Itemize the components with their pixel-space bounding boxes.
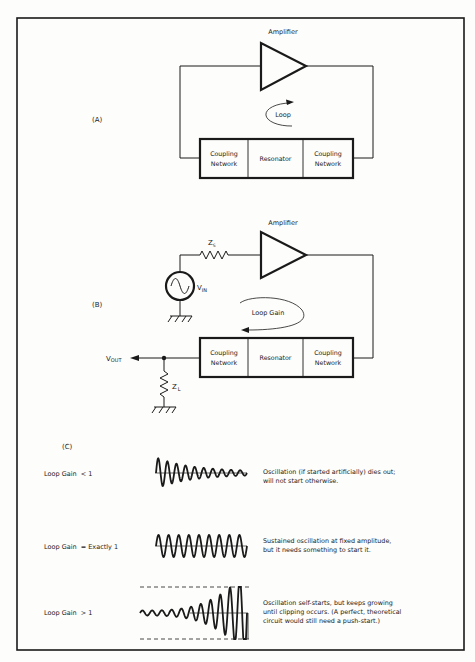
part-b-label: (B): [92, 301, 103, 309]
condition-label: Loop Gain = Exactly 1: [44, 543, 118, 551]
part-a-label: (A): [92, 116, 103, 124]
description-line1: Oscillation (if started artificially) di…: [263, 468, 396, 476]
zl-resistor-icon: [160, 371, 168, 397]
coupling-network-left-line2: Network: [211, 359, 238, 366]
feedback-wire-right: [306, 255, 373, 358]
loop-gain-label: Loop Gain: [252, 309, 285, 317]
figure-frame: [17, 18, 464, 650]
loop-gain-arrowhead-icon: [241, 327, 249, 333]
part-c-loop-gain-comparison: (C) Loop Gain < 1 Oscillation (if starte…: [44, 443, 402, 639]
description-line1: Oscillation self-starts, but keeps growi…: [263, 599, 393, 607]
loop-arrowhead-icon: [286, 100, 294, 106]
coupling-network-right-line2: Network: [315, 359, 342, 366]
vout-label: VOUT: [106, 355, 122, 363]
zl-label: ZL: [172, 383, 181, 392]
coupling-network-left-line1: Coupling: [210, 150, 238, 158]
source-wire: [180, 255, 200, 272]
output-arrowhead-icon: [130, 355, 139, 361]
resonator-label: Resonator: [260, 354, 292, 361]
vin-label: VIN: [197, 284, 207, 293]
description-line2: until clipping occurs. (A perfect, theor…: [263, 608, 402, 616]
part-b-loop-gain-diagram: (B) Amplifier ZS VIN Loop Gain Coupling: [92, 219, 373, 413]
coupling-network-right-line2: Network: [315, 160, 342, 167]
amplifier-triangle-icon: [261, 232, 306, 278]
ground-icon: [168, 316, 192, 322]
condition-label: Loop Gain > 1: [44, 609, 92, 617]
coupling-network-right-line1: Coupling: [314, 349, 342, 357]
ground-icon: [152, 407, 176, 413]
oscillator-loop-gain-diagram: (A) Amplifier Loop Coupling Network Reso…: [0, 0, 475, 662]
amplifier-label: Amplifier: [268, 219, 298, 227]
coupling-network-right-line1: Coupling: [314, 150, 342, 158]
condition-label: Loop Gain < 1: [44, 470, 92, 478]
amplifier-triangle-icon: [261, 43, 306, 90]
description-line2: will not start otherwise.: [263, 477, 338, 485]
coupling-network-left-line1: Coupling: [210, 349, 238, 357]
coupling-network-left-line2: Network: [211, 160, 238, 167]
feedback-wire-right: [306, 66, 373, 158]
sine-wave-icon: [171, 279, 189, 294]
description-line1: Sustained oscillation at fixed amplitude…: [263, 537, 391, 545]
amplifier-label: Amplifier: [268, 28, 298, 36]
decaying-waveform-icon: [156, 458, 247, 486]
part-c-label: (C): [62, 443, 73, 451]
part-a-loop-diagram: (A) Amplifier Loop Coupling Network Reso…: [92, 28, 373, 178]
description-line2: but it needs something to start it.: [263, 546, 371, 554]
zs-resistor-icon: [200, 251, 228, 259]
loop-label: Loop: [275, 111, 291, 119]
description-line3: circuit would still need a push-start.): [263, 617, 380, 625]
zs-label: ZS: [208, 239, 216, 248]
resonator-label: Resonator: [260, 155, 292, 162]
feedback-wire-left: [180, 66, 261, 158]
